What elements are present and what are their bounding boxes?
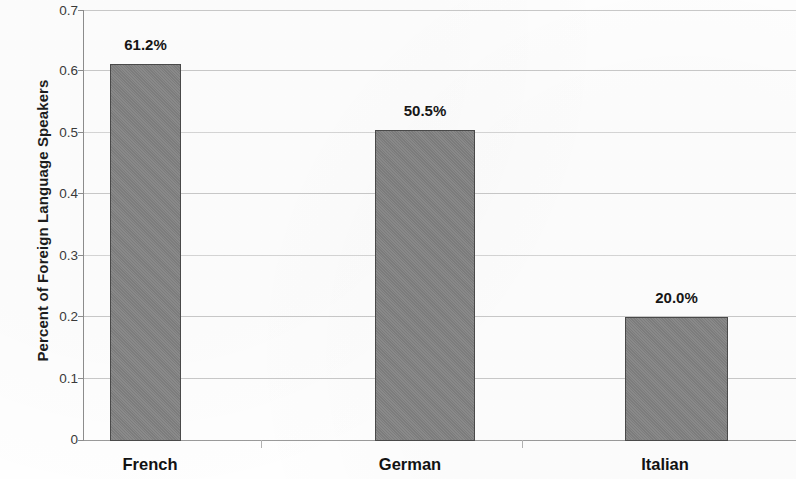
y-tick-label: 0.7 — [32, 4, 78, 18]
bar-chart: Percent of Foreign Language Speakers 0.7… — [0, 0, 796, 479]
bar-german — [375, 130, 475, 441]
plot-area: 61.2% 50.5% 20.0% — [84, 10, 796, 440]
category-label-italian: Italian — [600, 455, 730, 474]
x-axis-tick — [522, 440, 523, 448]
bar-value-german: 50.5% — [370, 102, 480, 119]
y-tick-label: 0.4 — [32, 187, 78, 201]
bar-value-french: 61.2% — [90, 36, 201, 53]
bar-value-italian: 20.0% — [621, 289, 732, 306]
y-tick-label: 0 — [32, 433, 78, 447]
y-tick-label: 0.2 — [32, 310, 78, 324]
bar-italian — [625, 317, 728, 441]
y-tick-label: 0.1 — [32, 372, 78, 386]
gridline-0.6 — [84, 70, 796, 71]
category-label-french: French — [85, 455, 215, 474]
y-tick-label: 0.6 — [32, 64, 78, 78]
y-tick-label: 0.5 — [32, 126, 78, 140]
y-tick-label: 0.3 — [32, 249, 78, 263]
y-axis-tick-labels: 0.7 0.6 0.5 0.4 0.3 0.2 0.1 0 — [22, 0, 78, 479]
x-axis-tick — [261, 440, 262, 448]
category-label-german: German — [345, 455, 475, 474]
bar-french — [110, 64, 181, 441]
gridline-0.7 — [84, 10, 796, 11]
